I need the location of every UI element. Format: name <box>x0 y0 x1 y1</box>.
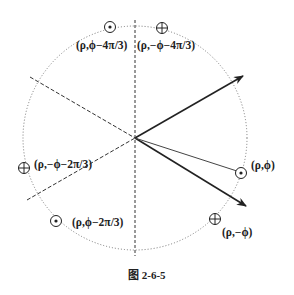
dot-circle-icon <box>236 168 247 179</box>
cross-circle-icon <box>19 163 30 174</box>
upper-left-dashed-line <box>30 77 135 138</box>
label-rho-phi-minus-2pi3: (ρ,ϕ−2π/3) <box>72 216 124 229</box>
thin-line-to-p-phi <box>135 138 240 172</box>
label-rho-neg-phi: (ρ,−ϕ) <box>222 226 253 239</box>
label-rho-phi: (ρ,ϕ) <box>251 159 275 172</box>
diagram-canvas: (ρ,ϕ−4π/3) (ρ,−ϕ−4π/3) (ρ,ϕ) (ρ,−ϕ) (ρ,−… <box>0 0 294 295</box>
upper-right-arrow <box>135 76 243 138</box>
dot-circle-icon <box>51 216 62 227</box>
lower-right-arrow <box>135 138 246 206</box>
dot-circle-icon <box>105 22 116 33</box>
label-rho-phi-minus-4pi3: (ρ,ϕ−4π/3) <box>76 39 128 52</box>
label-rho-neg-phi-minus-4pi3: (ρ,−ϕ−4π/3) <box>137 39 195 52</box>
cross-circle-icon <box>210 214 221 225</box>
label-rho-neg-phi-minus-2pi3: (ρ,−ϕ−2π/3) <box>34 158 92 171</box>
figure-caption: 图 2-6-5 <box>128 269 166 281</box>
cross-circle-icon <box>157 23 168 34</box>
